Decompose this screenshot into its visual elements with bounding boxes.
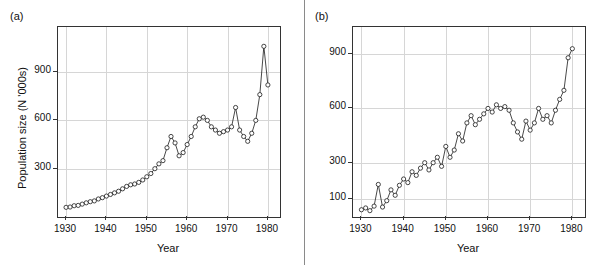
panel-b-plot-area xyxy=(352,26,586,218)
panel-a: (a) Population size (N '000s) Year 30060… xyxy=(0,0,304,265)
data-point xyxy=(482,112,486,116)
data-point xyxy=(209,125,213,129)
data-point xyxy=(515,130,519,134)
x-axis-tick-label: 1940 xyxy=(383,223,423,234)
data-point xyxy=(213,128,217,132)
data-series xyxy=(58,27,280,217)
series-line xyxy=(361,49,572,211)
data-point xyxy=(225,128,229,132)
y-axis-tick-label: 600 xyxy=(17,112,51,123)
data-point xyxy=(149,171,153,175)
data-point xyxy=(120,187,124,191)
data-point xyxy=(137,180,141,184)
x-axis-tick xyxy=(529,216,530,220)
data-point xyxy=(385,199,389,203)
x-axis-tick xyxy=(403,216,404,220)
data-point xyxy=(558,97,562,101)
x-axis-tick xyxy=(227,216,228,220)
data-point xyxy=(473,123,477,127)
x-axis-tick-label: 1960 xyxy=(467,223,507,234)
data-point xyxy=(193,125,197,129)
data-point xyxy=(153,167,157,171)
data-point xyxy=(229,125,233,129)
data-point xyxy=(205,118,209,122)
data-point xyxy=(402,177,406,181)
y-axis-tick-label: 100 xyxy=(312,191,346,202)
data-point xyxy=(234,105,238,109)
data-point xyxy=(431,161,435,165)
x-axis-tick-label: 1960 xyxy=(166,223,206,234)
data-point xyxy=(141,178,145,182)
x-axis-tick xyxy=(146,216,147,220)
x-axis-tick-label: 1940 xyxy=(85,223,125,234)
data-point xyxy=(541,117,545,121)
x-axis-tick xyxy=(65,216,66,220)
data-point xyxy=(108,192,112,196)
data-point xyxy=(242,134,246,138)
data-point xyxy=(499,106,503,110)
x-axis-tick xyxy=(445,216,446,220)
data-point xyxy=(435,155,439,159)
data-point xyxy=(528,128,532,132)
data-point xyxy=(494,103,498,107)
data-point xyxy=(129,183,133,187)
data-point xyxy=(520,137,524,141)
data-point xyxy=(88,200,92,204)
data-point xyxy=(562,88,566,92)
data-point xyxy=(490,110,494,114)
x-axis-tick-label: 1950 xyxy=(126,223,166,234)
data-point xyxy=(80,202,84,206)
data-point xyxy=(189,134,193,138)
data-point xyxy=(181,150,185,154)
y-axis-tick xyxy=(53,119,57,120)
data-point xyxy=(553,108,557,112)
data-point xyxy=(566,56,570,60)
data-point xyxy=(507,108,511,112)
y-axis-tick xyxy=(348,53,352,54)
y-axis-tick xyxy=(348,162,352,163)
data-point xyxy=(92,199,96,203)
panel-b-tag: (b) xyxy=(315,10,328,22)
data-point xyxy=(104,194,108,198)
data-point xyxy=(452,148,456,152)
x-axis-tick xyxy=(360,216,361,220)
data-point xyxy=(84,201,88,205)
x-axis-tick-label: 1970 xyxy=(509,223,549,234)
data-point xyxy=(201,115,205,119)
data-point xyxy=(116,189,120,193)
data-point xyxy=(266,83,270,87)
data-point xyxy=(469,114,473,118)
x-axis-tick-label: 1980 xyxy=(551,223,591,234)
data-point xyxy=(173,141,177,145)
data-point xyxy=(376,182,380,186)
data-point xyxy=(258,93,262,97)
y-axis-tick xyxy=(53,71,57,72)
data-point xyxy=(197,117,201,121)
data-point xyxy=(570,47,574,51)
data-point xyxy=(486,106,490,110)
data-point xyxy=(157,162,161,166)
data-point xyxy=(380,205,384,209)
data-point xyxy=(393,193,397,197)
panel-b-x-axis-title: Year xyxy=(352,242,584,254)
data-point xyxy=(414,173,418,177)
data-point xyxy=(511,121,515,125)
data-point xyxy=(64,205,68,209)
data-point xyxy=(372,204,376,208)
data-point xyxy=(76,203,80,207)
data-point xyxy=(503,105,507,109)
data-point xyxy=(165,146,169,150)
data-point xyxy=(456,132,460,136)
data-point xyxy=(96,197,100,201)
data-point xyxy=(217,131,221,135)
data-point xyxy=(169,134,173,138)
data-point xyxy=(532,121,536,125)
y-axis-tick xyxy=(348,198,352,199)
panel-a-tag: (a) xyxy=(10,10,23,22)
x-axis-tick-label: 1980 xyxy=(247,223,287,234)
y-axis-tick-label: 900 xyxy=(312,46,346,57)
data-point xyxy=(397,183,401,187)
x-axis-tick-label: 1930 xyxy=(45,223,85,234)
figure-root: (a) Population size (N '000s) Year 30060… xyxy=(0,0,609,265)
data-point xyxy=(427,168,431,172)
